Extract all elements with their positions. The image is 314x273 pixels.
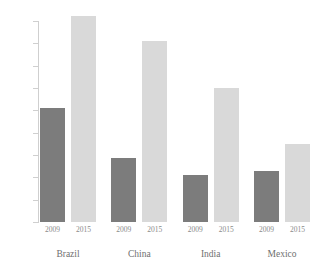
x-tick-group: 20092015 bbox=[254, 226, 310, 238]
x-tick-label: 2009 bbox=[183, 226, 208, 238]
category-label: Mexico bbox=[254, 250, 310, 264]
bar-chart: 024681012141618 200920152009201520092015… bbox=[0, 0, 314, 273]
y-tick-mark bbox=[33, 222, 38, 223]
x-tick-label: 2015 bbox=[285, 226, 310, 238]
bar bbox=[285, 144, 310, 222]
x-tick-label: 2009 bbox=[254, 226, 279, 238]
bar bbox=[214, 88, 239, 222]
bar-group bbox=[183, 12, 239, 222]
x-tick-label: 2009 bbox=[40, 226, 65, 238]
bar bbox=[111, 158, 136, 222]
y-axis-line bbox=[38, 21, 39, 223]
y-tick-mark bbox=[33, 200, 38, 201]
y-tick-mark bbox=[33, 88, 38, 89]
category-labels: BrazilChinaIndiaMexico bbox=[40, 250, 310, 264]
y-tick-mark bbox=[33, 43, 38, 44]
bar-groups bbox=[40, 12, 310, 222]
bar-group bbox=[254, 12, 310, 222]
y-tick-mark bbox=[33, 155, 38, 156]
bar bbox=[183, 175, 208, 222]
x-tick-label: 2015 bbox=[142, 226, 167, 238]
category-label: China bbox=[111, 250, 167, 264]
x-tick-label: 2009 bbox=[111, 226, 136, 238]
bar-group bbox=[40, 12, 96, 222]
y-tick-mark bbox=[33, 21, 38, 22]
bar bbox=[254, 171, 279, 222]
y-tick-mark bbox=[33, 177, 38, 178]
x-tick-group: 20092015 bbox=[111, 226, 167, 238]
bar bbox=[142, 41, 167, 222]
y-tick-mark bbox=[33, 66, 38, 67]
bar-group bbox=[111, 12, 167, 222]
category-label: Brazil bbox=[40, 250, 96, 264]
bar bbox=[40, 108, 65, 222]
category-label: India bbox=[183, 250, 239, 264]
x-tick-group: 20092015 bbox=[183, 226, 239, 238]
x-tick-labels: 20092015200920152009201520092015 bbox=[40, 226, 310, 238]
bar bbox=[71, 16, 96, 222]
x-tick-group: 20092015 bbox=[40, 226, 96, 238]
x-tick-label: 2015 bbox=[71, 226, 96, 238]
y-tick-mark bbox=[33, 110, 38, 111]
x-tick-label: 2015 bbox=[214, 226, 239, 238]
y-tick-mark bbox=[33, 133, 38, 134]
